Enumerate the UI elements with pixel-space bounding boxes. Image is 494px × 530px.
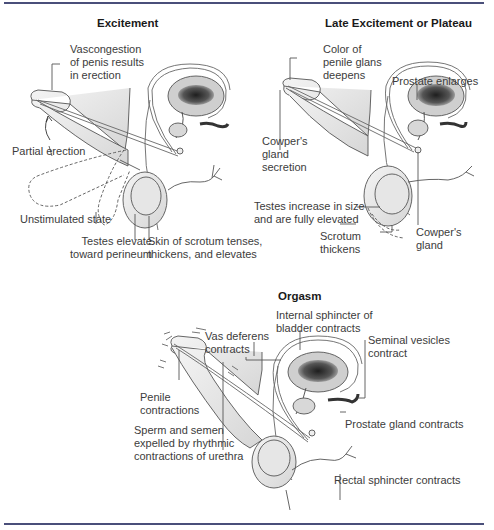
label-internal-sphincter: Internal sphincter of bladder contracts <box>276 309 373 335</box>
label-prostate-enlarges: Prostate enlarges <box>392 75 478 88</box>
label-cowpers-secretion: Cowper's gland secretion <box>262 135 308 174</box>
label-partial-erection: Partial erection <box>12 145 85 158</box>
label-prostate-contracts: Prostate gland contracts <box>345 418 464 431</box>
label-testes-elevate: Testes elevate toward perineum <box>70 235 152 261</box>
label-scrotum-skin: Skin of scrotum tenses, thickens, and el… <box>148 235 262 261</box>
label-rectal-sphincter: Rectal sphincter contracts <box>334 474 461 487</box>
label-vas-deferens: Vas deferens contracts <box>205 330 269 356</box>
label-penile-contractions: Penile contractions <box>140 391 199 417</box>
label-testes-increase: Testes increase in size and are fully el… <box>254 200 365 226</box>
label-sperm-expelled: Sperm and semen expelled by rhythmic con… <box>134 424 243 463</box>
panel-title-orgasm: Orgasm <box>278 290 321 302</box>
label-glans-color: Color of penile glans deepens <box>323 43 382 82</box>
label-seminal-vesicles: Seminal vesicles contract <box>368 334 450 360</box>
label-scrotum-thickens: Scrotum thickens <box>320 230 361 256</box>
panel-title-plateau: Late Excitement or Plateau <box>325 17 472 29</box>
label-cowpers-gland: Cowper's gland <box>416 226 462 252</box>
panel-title-excitement: Excitement <box>97 17 158 29</box>
label-vasocongestion: Vascongestion of penis results in erecti… <box>70 43 144 82</box>
label-unstimulated-state: Unstimulated state <box>20 213 111 226</box>
